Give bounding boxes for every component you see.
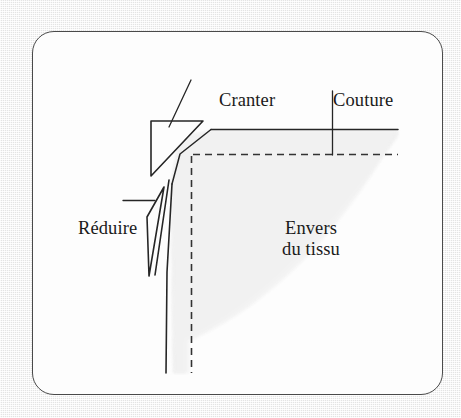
fabric-left-edge-line: [166, 184, 172, 373]
label-envers-du-tissu: Envers du tissu: [265, 218, 357, 259]
label-couture: Couture: [333, 90, 393, 111]
label-envers-line1: Envers: [285, 218, 337, 238]
sewing-diagram: [33, 32, 443, 395]
cranter-leader-line: [169, 80, 191, 127]
trimmed-sliver: [147, 180, 169, 276]
label-cranter: Cranter: [219, 90, 275, 111]
figure-card: Cranter Couture Réduire Envers du tissu: [32, 31, 443, 395]
label-envers-line2: du tissu: [265, 239, 357, 260]
label-reduire: Réduire: [78, 218, 137, 239]
